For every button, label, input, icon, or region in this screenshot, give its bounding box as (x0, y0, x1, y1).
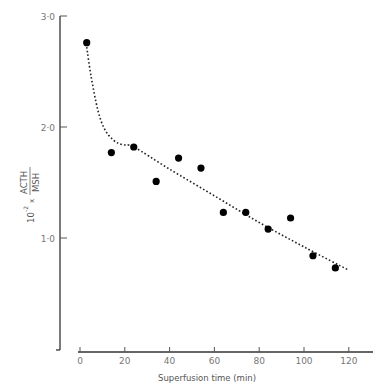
data-point (153, 178, 160, 185)
x-ticks: 020406080100120 (77, 347, 358, 366)
y-ticks: 1·02·03·0 (41, 12, 67, 244)
data-points (83, 39, 339, 272)
x-tick-label: 0 (77, 356, 83, 366)
x-tick-label: 60 (209, 356, 221, 366)
data-point (175, 154, 182, 161)
y-axis-title-times: x (28, 199, 36, 203)
y-axis: 1·02·03·0 10 -2 x ACTH MSH (19, 12, 67, 351)
x-tick-label: 20 (119, 356, 131, 366)
x-axis: 020406080100120 Superfusion time (min) (77, 347, 373, 383)
y-tick-label: 3·0 (41, 12, 56, 22)
x-tick-label: 40 (164, 356, 176, 366)
data-point (309, 252, 316, 259)
x-tick-label: 100 (295, 356, 312, 366)
scatter-chart: 1·02·03·0 10 -2 x ACTH MSH 0204060801001… (0, 0, 385, 390)
y-axis-title-prefix: 10 (26, 212, 36, 223)
data-point (83, 39, 90, 46)
y-axis-title-exponent: -2 (22, 206, 29, 212)
data-point (197, 164, 204, 171)
y-tick-label: 2·0 (41, 123, 56, 133)
y-axis-title-numerator: ACTH (19, 171, 29, 194)
y-axis-title-denominator: MSH (31, 173, 41, 192)
data-point (108, 149, 115, 156)
y-tick-label: 1·0 (41, 234, 56, 244)
data-point (130, 143, 137, 150)
y-axis-title: 10 -2 x ACTH MSH (19, 167, 41, 223)
data-point (287, 214, 294, 221)
fitted-curve (87, 47, 349, 270)
data-point (332, 264, 339, 271)
x-axis-title: Superfusion time (min) (158, 373, 256, 383)
x-tick-label: 80 (253, 356, 265, 366)
x-tick-label: 120 (340, 356, 357, 366)
data-point (265, 226, 272, 233)
plot-area (83, 39, 349, 272)
data-point (242, 209, 249, 216)
data-point (220, 209, 227, 216)
